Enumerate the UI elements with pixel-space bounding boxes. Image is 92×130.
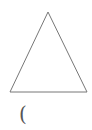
open-parenthesis-label: ( <box>19 104 27 124</box>
diagram-canvas <box>0 0 92 130</box>
triangle-shape <box>10 12 87 92</box>
